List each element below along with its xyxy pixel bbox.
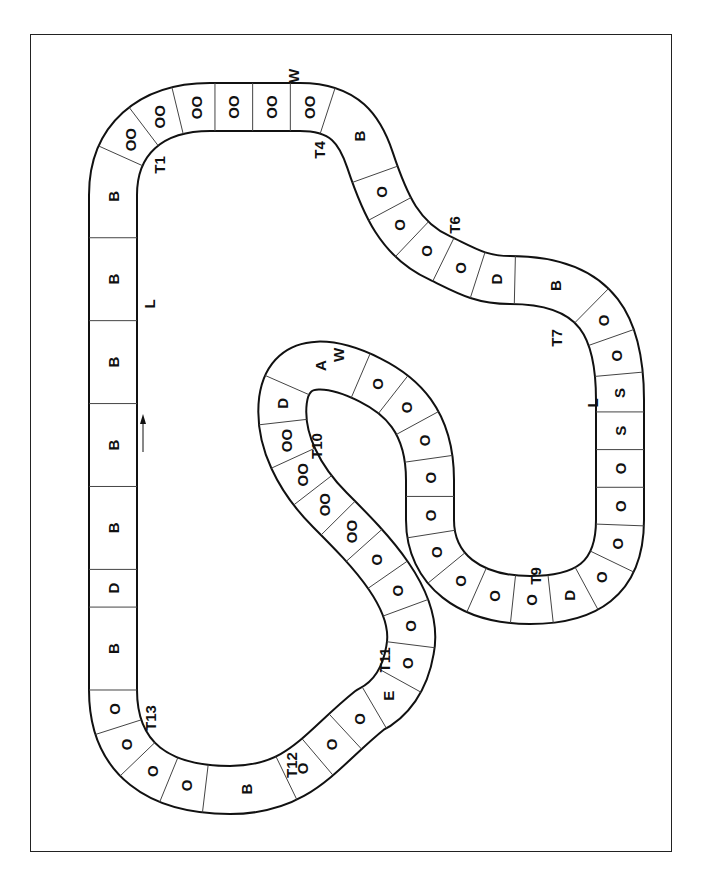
track-segment-label: O (422, 509, 439, 521)
marker-w-top: W (285, 68, 302, 83)
track-segment-label: O (486, 590, 503, 602)
turn-label-t13: T13 (142, 705, 159, 731)
track-segment-label: OO (122, 128, 139, 152)
track-segment-label: O (402, 620, 419, 632)
track-segment-label: B (105, 357, 122, 368)
track-segment-label: B (105, 643, 122, 654)
track-segment-label: B (105, 191, 122, 202)
track-segment-label: O (391, 219, 408, 231)
track-segment-label: O (389, 585, 406, 597)
marker-l-right: L (584, 398, 601, 407)
track-segment-label: O (428, 546, 445, 558)
track-segment-label: O (416, 434, 433, 446)
track-segment-label: O (323, 738, 340, 750)
turn-label-t11: T11 (376, 647, 393, 672)
track-segment-label: O (418, 245, 435, 257)
turn-label-t4: T4 (311, 141, 328, 159)
turn-label-t10: T10 (308, 433, 325, 459)
track-segment-label: OO (278, 429, 295, 453)
turn-label-t12: T12 (283, 752, 300, 778)
track-segment-label: O (368, 554, 385, 566)
track-segment-label: O (523, 594, 540, 606)
turn-label-t6: T6 (446, 216, 463, 234)
track-segment-label: B (105, 274, 122, 285)
track-segment-label: O (373, 186, 390, 198)
track-segment-label: O (593, 571, 610, 583)
track-segment-label: D (488, 274, 505, 285)
track-segment-label: D (274, 398, 291, 409)
marker-l-left: L (141, 299, 158, 308)
track-segment-label: O (106, 703, 123, 715)
track-segment-label: O (612, 462, 629, 474)
track-segment-label: OO (225, 95, 242, 119)
track-segment-label: OO (316, 493, 333, 517)
track-segment-label: S (611, 388, 628, 398)
track-segment-label: B (105, 522, 122, 533)
track-segment-label: OO (188, 96, 205, 120)
track-segment-label: O (452, 575, 469, 587)
track-segment-label: S (612, 426, 629, 436)
track-segment-label: O (369, 378, 386, 390)
track-segment-label: O (608, 349, 625, 361)
track-segment-label: E (380, 691, 397, 701)
track-segment-label: O (118, 738, 135, 750)
track-segment-label: O (595, 314, 612, 326)
track-segment-label: O (612, 500, 629, 512)
track-segment-label: B (351, 130, 368, 141)
track-segment-label: O (452, 262, 469, 274)
track-segment-label: OO (301, 95, 318, 119)
turn-label-t1: T1 (151, 156, 168, 174)
track-diagram: BDBBBBBOOOOOOOOOOOOBOOOODBOOSSOOOODOOOOO… (0, 0, 701, 874)
track-segment-label: OO (294, 463, 311, 487)
track-segment-label: OO (343, 520, 360, 544)
track-segment-label: O (144, 765, 161, 777)
track-segment-label: B (238, 784, 255, 795)
track-surface (113, 107, 620, 790)
track-segment-label: OO (151, 105, 168, 129)
track-segment-label: B (105, 439, 122, 450)
track-segment-label: OO (263, 95, 280, 119)
track-segment-label: O (178, 779, 195, 791)
track-segment-label: D (105, 583, 122, 594)
track-segment-label: B (547, 280, 564, 291)
track-segment-label: D (561, 590, 578, 601)
arrow-up-icon (140, 414, 146, 452)
turn-labels: T1 T4 T6 T7 T9 T10 T11 T12 T13 (142, 141, 565, 778)
turn-label-t7: T7 (548, 329, 565, 347)
track-segment-label: O (399, 657, 416, 669)
track-segment-label: A (312, 360, 329, 371)
track-segment-label: O (351, 713, 368, 725)
track-segment-label: O (398, 401, 415, 413)
marker-w-inner: W (330, 347, 347, 362)
turn-label-t9: T9 (527, 567, 544, 585)
track-segment-label: O (422, 471, 439, 483)
track-segment-label: O (609, 538, 626, 550)
